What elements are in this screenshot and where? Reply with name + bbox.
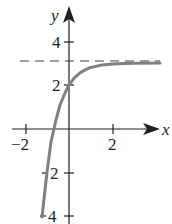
y-tick-label-4: 4 <box>52 33 61 52</box>
y-tick-label-neg2: 2 <box>50 164 59 183</box>
x-tick-label-neg2: −2 <box>11 135 29 154</box>
y-tick-label-neg4: 4 <box>48 207 57 224</box>
x-axis-label: x <box>161 120 170 139</box>
y-tick-label-2: 2 <box>52 76 61 95</box>
y-axis-label: y <box>49 6 59 25</box>
chart: x y −2 2 4 2 2 4 <box>0 0 172 224</box>
x-tick-label-pos2: 2 <box>108 135 117 154</box>
